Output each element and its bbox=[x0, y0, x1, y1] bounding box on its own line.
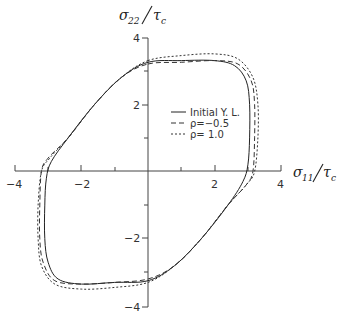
x-axis-label: σ 11 τ c bbox=[293, 164, 336, 183]
svg-text:τ: τ bbox=[153, 7, 161, 23]
legend-label: ρ= 1.0 bbox=[190, 129, 224, 140]
y-tick-label: 2 bbox=[133, 99, 140, 112]
svg-text:11: 11 bbox=[302, 173, 313, 183]
y-tick-label: 4 bbox=[133, 32, 140, 45]
x-tick-label: −2 bbox=[74, 178, 90, 191]
svg-text:τ: τ bbox=[323, 164, 331, 180]
x-tick-label: −4 bbox=[6, 178, 22, 191]
y-axis-label: σ 22 τ c bbox=[119, 6, 166, 26]
x-tick-label: 4 bbox=[277, 178, 284, 191]
y-tick-label: −4 bbox=[124, 301, 140, 314]
legend-label: Initial Y. L. bbox=[190, 107, 240, 118]
svg-text:c: c bbox=[331, 173, 336, 183]
legend-label: ρ=−0.5 bbox=[190, 118, 229, 129]
y-ticks bbox=[142, 38, 148, 307]
x-tick-label: 2 bbox=[211, 178, 218, 191]
series-initial-yield-locus bbox=[44, 60, 249, 284]
y-tick-label: −2 bbox=[124, 232, 140, 245]
svg-text:c: c bbox=[161, 16, 166, 26]
legend: Initial Y. L. ρ=−0.5 ρ= 1.0 bbox=[171, 107, 240, 140]
series-rho-neg-0-5 bbox=[39, 61, 254, 285]
yield-locus-chart: −4 −2 2 4 4 2 −2 −4 σ 22 τ c σ 11 τ c In… bbox=[0, 0, 344, 320]
svg-text:22: 22 bbox=[127, 16, 140, 26]
